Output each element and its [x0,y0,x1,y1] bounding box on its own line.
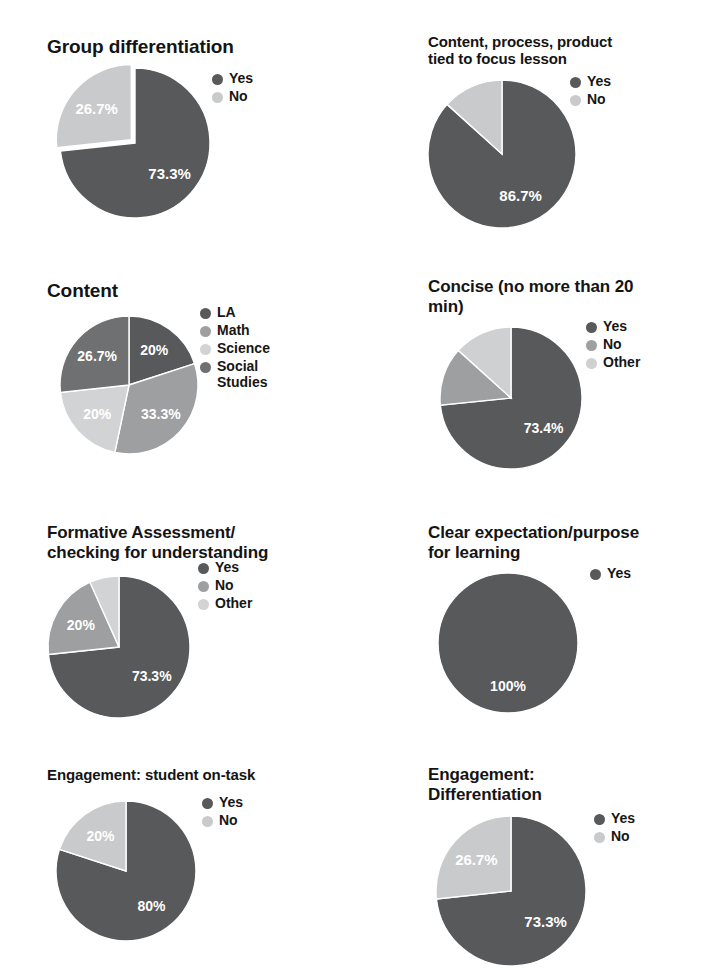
chart-legend: YesNo [202,795,243,829]
legend-item[interactable]: No [570,92,611,108]
legend-item[interactable]: Yes [590,566,631,582]
pie-plot: 100% [430,565,586,721]
pie-svg: 100% [430,565,586,721]
legend-swatch-icon [198,599,209,610]
pie-chart-grid: Group differentiation 73.3%26.7% YesNo C… [0,0,728,979]
legend-label: Yes [219,795,243,811]
slice-value-label: 73.3% [132,668,172,684]
chart-legend: YesNo [594,811,635,845]
chart-legend: YesNoOther [198,560,252,612]
chart-card-concise: Concise (no more than 20 min) 73.4% YesN… [410,245,728,490]
slice-value-label: 80% [137,898,166,914]
legend-item[interactable]: Science [200,341,270,357]
legend-swatch-icon [570,77,581,88]
legend-item[interactable]: Yes [570,74,611,90]
pie-svg: 73.3%26.7% [52,60,218,226]
slice-value-label: 86.7% [499,187,542,204]
pie-plot: 73.4% [432,319,590,477]
chart-legend: Yes [590,566,631,582]
pie-plot: 73.3%20% [40,568,198,726]
legend-label: No [587,92,606,108]
pie-plot: 20%33.3%20%26.7% [52,308,206,462]
slice-value-label: 73.3% [524,913,567,930]
pie-plot: 80%20% [48,793,204,949]
pie-plot: 86.7% [420,72,584,236]
legend-swatch-icon [586,340,597,351]
legend-swatch-icon [200,326,211,337]
legend-swatch-icon [198,563,209,574]
slice-value-label: 20% [86,828,115,844]
legend-label: LA [217,305,236,321]
chart-title: Group differentiation [47,36,234,58]
legend-swatch-icon [212,74,223,85]
legend-swatch-icon [594,814,605,825]
pie-svg: 20%33.3%20%26.7% [52,308,206,462]
chart-title: Concise (no more than 20 min) [428,277,633,316]
slice-value-label: 100% [490,678,526,694]
legend-swatch-icon [200,362,211,373]
legend-label: Other [603,355,640,371]
legend-label: No [219,813,238,829]
legend-swatch-icon [570,95,581,106]
chart-legend: LAMathScienceSocial Studies [200,305,270,391]
legend-label: Math [217,323,250,339]
legend-label: Social Studies [217,359,268,391]
legend-item[interactable]: Yes [202,795,243,811]
legend-label: Science [217,341,270,357]
legend-swatch-icon [590,569,601,580]
legend-label: Yes [603,319,627,335]
legend-swatch-icon [586,322,597,333]
legend-swatch-icon [586,358,597,369]
legend-item[interactable]: Yes [198,560,252,576]
chart-title: Engagement: student on-task [47,766,255,783]
legend-item[interactable]: No [198,578,252,594]
legend-swatch-icon [212,92,223,103]
pie-plot: 73.3%26.7% [52,60,218,226]
legend-label: Yes [611,811,635,827]
chart-card-content-process-product: Content, process, product tied to focus … [410,0,728,245]
slice-value-label: 20% [67,617,96,633]
slice-value-label: 20% [140,342,169,358]
legend-item[interactable]: Yes [586,319,640,335]
slice-value-label: 26.7% [77,348,117,364]
chart-title: Formative Assessment/ checking for under… [47,523,268,562]
slice-value-label: 20% [83,406,112,422]
pie-svg: 73.3%20% [40,568,198,726]
legend-label: No [603,337,622,353]
legend-item[interactable]: Math [200,323,270,339]
legend-label: Yes [607,566,631,582]
legend-swatch-icon [202,798,213,809]
chart-card-engagement-student-on-task: Engagement: student on-task 80%20% YesNo [0,735,410,979]
legend-item[interactable]: Yes [212,71,253,87]
chart-legend: YesNo [212,71,253,105]
legend-label: No [215,578,234,594]
legend-item[interactable]: Other [198,596,252,612]
legend-item[interactable]: No [586,337,640,353]
chart-card-content: Content 20%33.3%20%26.7% LAMathScienceSo… [0,245,410,490]
legend-swatch-icon [198,581,209,592]
legend-item[interactable]: No [212,89,253,105]
pie-svg: 73.3%26.7% [428,808,594,974]
legend-item[interactable]: Social Studies [200,359,270,391]
pie-plot: 73.3%26.7% [428,808,594,974]
legend-item[interactable]: No [202,813,243,829]
pie-svg: 86.7% [420,72,584,236]
legend-item[interactable]: Other [586,355,640,371]
legend-label: Yes [215,560,239,576]
chart-card-clear-expectation: Clear expectation/purpose for learning 1… [410,490,728,735]
chart-title: Engagement: Differentiation [428,765,542,804]
chart-card-engagement-differentiation: Engagement: Differentiation 73.3%26.7% Y… [410,735,728,979]
slice-value-label: 26.7% [455,851,498,868]
legend-swatch-icon [594,832,605,843]
chart-title: Clear expectation/purpose for learning [428,523,639,562]
legend-label: No [229,89,248,105]
legend-item[interactable]: No [594,829,635,845]
legend-label: Yes [587,74,611,90]
legend-swatch-icon [200,308,211,319]
slice-value-label: 73.3% [148,165,191,182]
chart-title: Content [47,280,118,302]
slice-value-label: 26.7% [75,100,118,117]
chart-legend: YesNo [570,74,611,108]
legend-item[interactable]: LA [200,305,270,321]
legend-item[interactable]: Yes [594,811,635,827]
